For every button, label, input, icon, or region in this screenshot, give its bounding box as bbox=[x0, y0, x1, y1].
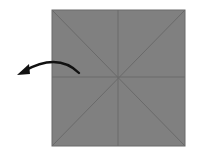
origami-diagram bbox=[0, 0, 198, 151]
arrow-head-icon bbox=[17, 64, 30, 75]
